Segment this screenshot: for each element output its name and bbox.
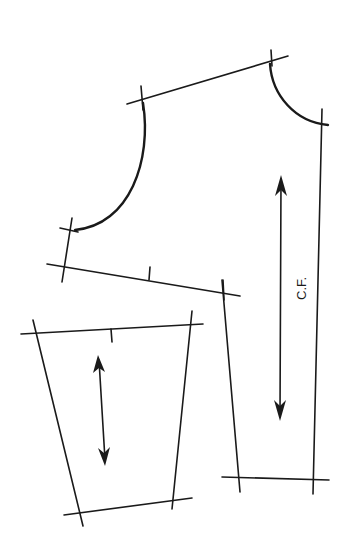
neckline-curve [270,64,328,125]
shoulder-line [127,56,288,104]
center-front-line [313,109,322,494]
pattern-diagram: C.F. [0,0,347,547]
side-seam [62,218,72,282]
cf-label: C.F. [294,277,309,300]
bodice-piece: C.F. [47,50,329,494]
neck-tick [271,50,272,66]
top-notch [111,329,112,342]
armhole-curve [75,103,145,230]
waist-line [47,264,240,296]
waist-notch [149,267,150,280]
left-side [33,320,83,526]
cf-grainline [280,180,281,415]
right-side [172,311,192,509]
trapezoid-piece [21,311,203,526]
grainline [99,360,105,460]
lower-side-line [222,280,240,492]
